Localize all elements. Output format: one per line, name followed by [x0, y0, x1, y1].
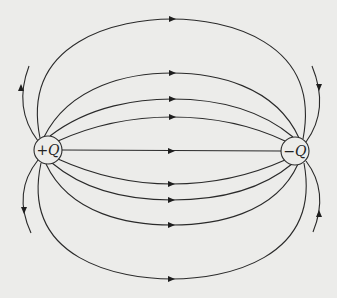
- field-line-bottom-4: [58, 159, 285, 184]
- field-line-left-upper: [23, 66, 38, 141]
- arrow-right-icon: [168, 276, 175, 282]
- arrow-right-icon: [169, 114, 176, 120]
- field-line-bottom-3: [52, 163, 292, 200]
- dipole-field-diagram: +Q −Q: [0, 0, 337, 298]
- arrow-down-icon: [316, 84, 322, 91]
- field-line-bottom-2: [46, 164, 298, 225]
- negative-charge-label: −Q: [283, 143, 307, 159]
- arrow-down-icon: [21, 207, 27, 214]
- negative-charge: −Q: [281, 137, 309, 165]
- field-line-top-outer: [37, 19, 305, 139]
- arrow-right-icon: [168, 197, 175, 203]
- arrow-right-icon: [169, 70, 176, 76]
- field-line-left-lower: [23, 160, 38, 233]
- positive-charge-label: +Q: [36, 142, 60, 158]
- arrow-right-icon: [169, 96, 176, 102]
- arrow-right-icon: [168, 148, 175, 154]
- field-line-right-upper: [306, 66, 320, 142]
- direction-arrows: [18, 16, 322, 282]
- field-line-right-lower: [306, 161, 320, 232]
- arrow-right-icon: [168, 181, 175, 187]
- field-lines: [23, 19, 320, 279]
- arrow-right-icon: [168, 222, 175, 228]
- field-line-top-4: [58, 117, 285, 141]
- field-line-top-2: [44, 73, 299, 138]
- arrow-up-icon: [316, 210, 322, 217]
- positive-charge: +Q: [34, 136, 62, 164]
- arrow-right-icon: [169, 16, 176, 22]
